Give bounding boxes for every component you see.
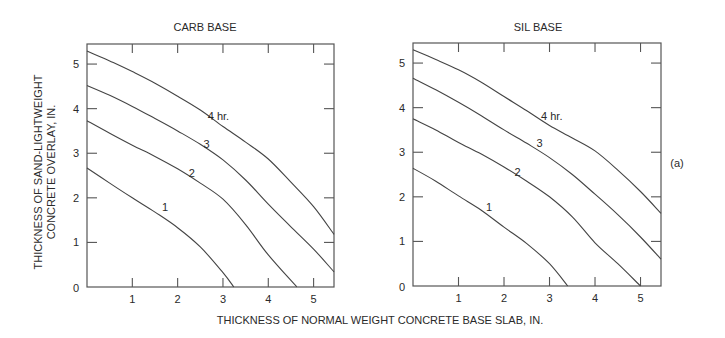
y-tick-label: 3 [73,147,79,159]
curve-4-hr [413,50,661,214]
x-tick-label: 5 [637,292,643,304]
plot-frame [87,44,334,287]
curve-2-hr [87,121,297,287]
y-axis-title: THICKNESS OF SAND-LIGHTWEIGHT CONCRETE O… [32,74,57,269]
x-tick-label: 1 [129,293,135,305]
curve-label-3: 3 [536,137,542,149]
y-tick-label: 2 [399,191,405,203]
y-tick-label: 4 [73,103,79,115]
x-axis-title: THICKNESS OF NORMAL WEIGHT CONCRETE BASE… [217,314,543,326]
y-axis-title-line1: THICKNESS OF SAND-LIGHTWEIGHT [32,74,44,269]
panel-sil-base: SIL BASE123450123451234 hr. [399,21,661,304]
y-tick-label: 3 [399,146,405,158]
curve-label-4: 4 hr. [541,110,562,122]
y-tick-label: 0 [73,282,79,294]
figure: CARB BASE123450123451234 hr. SIL BASE123… [0,0,725,338]
y-tick-label: 1 [73,236,79,248]
x-tick-label: 5 [311,293,317,305]
y-tick-label: 2 [73,192,79,204]
y-axis-title-line2: CONCRETE OVERLAY, IN. [45,105,57,240]
plot-frame [413,43,661,286]
x-tick-label: 3 [220,293,226,305]
x-tick-label: 4 [592,292,598,304]
x-tick-label: 1 [455,292,461,304]
curve-label-1: 1 [162,201,168,213]
curve-1-hr [87,168,234,287]
y-tick-label: 5 [399,57,405,69]
curve-1-hr [413,168,568,286]
curve-label-2: 2 [189,167,195,179]
figure-label: (a) [670,157,683,169]
y-tick-label: 5 [73,58,79,70]
x-tick-label: 4 [265,293,271,305]
curve-label-3: 3 [204,138,210,150]
x-tick-label: 2 [175,293,181,305]
y-tick-label: 1 [399,235,405,247]
curve-label-1: 1 [486,201,492,213]
curve-4-hr [87,51,334,234]
y-tick-label: 4 [399,102,405,114]
curve-3-hr [413,78,661,259]
curve-label-4: 4 hr. [208,110,229,122]
panel-title: SIL BASE [514,21,563,33]
curve-label-2: 2 [515,166,521,178]
x-tick-label: 3 [546,292,552,304]
panel-title: CARB BASE [174,21,237,33]
y-tick-label: 0 [399,281,405,293]
panel-carb-base: CARB BASE123450123451234 hr. [73,21,334,305]
x-tick-label: 2 [501,292,507,304]
